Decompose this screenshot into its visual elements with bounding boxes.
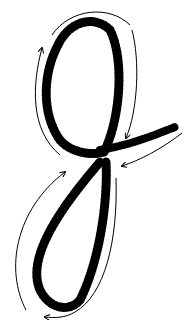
lower-loop-zigzag	[37, 162, 107, 307]
bottom-arrow-icon	[45, 312, 75, 317]
upper-loop-zigzag	[46, 22, 175, 154]
figure-eight-drawing	[0, 0, 185, 326]
upper-right-arrow-icon	[126, 30, 137, 138]
